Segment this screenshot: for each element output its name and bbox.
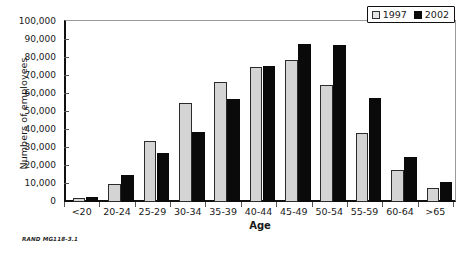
bar-2002-20-24 — [121, 175, 134, 202]
bar-group — [427, 22, 453, 202]
bar-group — [179, 22, 205, 202]
y-axis-tick-label: 70,000 — [25, 71, 57, 80]
bar-1997-20-24 — [108, 184, 121, 202]
bar-group — [73, 22, 99, 202]
bar-group — [108, 22, 134, 202]
y-axis-tick-label: 90,000 — [25, 35, 57, 44]
bar-group — [250, 22, 276, 202]
y-axis-tick — [64, 93, 69, 94]
bar-1997-60-64 — [391, 170, 404, 202]
y-axis-tick-label: 40,000 — [25, 125, 57, 134]
figure-source-note: RAND MG118-3.1 — [22, 236, 78, 242]
bar-2002-50-54 — [333, 45, 346, 202]
y-axis-tick-label: 10,000 — [25, 179, 57, 188]
legend-entry-1997: 1997 — [372, 9, 407, 20]
legend-label-2002: 2002 — [425, 9, 449, 20]
bar-1997-25-29 — [144, 141, 157, 202]
x-axis-tick-label: 20-24 — [99, 206, 134, 218]
y-axis-tick — [64, 39, 69, 40]
bar-2002->65 — [440, 182, 453, 202]
y-axis-tick-labels: 100,00090,00080,00070,00060,00050,00040,… — [0, 0, 62, 202]
y-axis-tick-label: 100,000 — [19, 17, 56, 26]
legend-swatch-2002 — [414, 11, 422, 19]
y-axis-tick-label: 20,000 — [25, 161, 57, 170]
bar-group — [214, 22, 240, 202]
y-axis-tick-label: 60,000 — [25, 89, 57, 98]
x-axis-tick-label: 35-39 — [205, 206, 240, 218]
y-axis-tick — [64, 129, 69, 130]
figure-container: Numbers of employees 100,00090,00080,000… — [0, 0, 465, 256]
y-axis-tick-label: 50,000 — [25, 107, 57, 116]
y-axis-tick-label: 80,000 — [25, 53, 57, 62]
legend-label-1997: 1997 — [383, 9, 407, 20]
x-axis-tick-label: >65 — [418, 206, 453, 218]
x-axis-tick-label: 25-29 — [135, 206, 170, 218]
bar-1997-45-49 — [285, 60, 298, 202]
x-axis-tick-label: 50-54 — [312, 206, 347, 218]
bar-group — [320, 22, 346, 202]
y-axis-tick — [64, 183, 69, 184]
bar-2002-25-29 — [157, 153, 170, 202]
bar-group — [391, 22, 417, 202]
plot-area — [64, 20, 456, 202]
legend-entry-2002: 2002 — [414, 9, 449, 20]
chart-legend: 1997 2002 — [367, 6, 455, 23]
x-axis-tick-label: 40-44 — [241, 206, 276, 218]
bar-group — [285, 22, 311, 202]
x-axis-tick-label: <20 — [64, 206, 99, 218]
bar-1997->65 — [427, 188, 440, 202]
y-axis-tick — [64, 111, 69, 112]
bar-1997-50-54 — [320, 85, 333, 202]
y-axis-tick — [64, 75, 69, 76]
bar-group — [144, 22, 170, 202]
x-axis-tick-label: 55-59 — [347, 206, 382, 218]
bar-1997-40-44 — [250, 67, 263, 202]
x-axis-tick-label: 30-34 — [170, 206, 205, 218]
bars-layer — [68, 22, 457, 202]
x-axis-tick-label: 60-64 — [382, 206, 417, 218]
bar-2002-35-39 — [227, 99, 240, 202]
bar-group — [356, 22, 382, 202]
y-axis-tick — [64, 147, 69, 148]
y-axis-tick-label: 30,000 — [25, 143, 57, 152]
legend-swatch-1997 — [372, 11, 380, 19]
y-axis-tick-label: 0 — [50, 197, 56, 206]
bar-2002-60-64 — [404, 157, 417, 202]
bar-2002-45-49 — [298, 44, 311, 202]
bar-2002-55-59 — [369, 98, 382, 202]
bar-2002-30-34 — [192, 132, 205, 202]
x-axis-tick-label: 45-49 — [276, 206, 311, 218]
bar-2002-40-44 — [263, 66, 276, 202]
bar-1997-55-59 — [356, 133, 369, 202]
bar-1997-35-39 — [214, 82, 227, 202]
y-axis-tick — [64, 165, 69, 166]
bar-1997-30-34 — [179, 103, 192, 202]
x-axis-title: Age — [64, 220, 456, 231]
y-axis-tick — [64, 57, 69, 58]
